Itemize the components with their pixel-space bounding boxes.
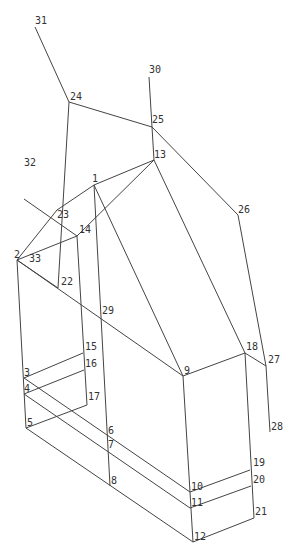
node-label-31: 31: [35, 15, 47, 26]
edge-2-22: [17, 260, 58, 288]
node-label-32: 32: [24, 157, 36, 168]
node-label-30: 30: [149, 64, 161, 75]
edge-24-22: [58, 102, 69, 288]
edge-9-10: [183, 376, 190, 492]
wireframe-diagram: 1234567891011121314151617181920212223242…: [0, 0, 301, 560]
node-label-29: 29: [102, 305, 114, 316]
diagram-edges: [17, 27, 270, 542]
edge-13-18: [154, 160, 245, 353]
edge-23-1: [57, 185, 94, 210]
node-label-1: 1: [92, 173, 98, 184]
node-label-25: 25: [152, 114, 164, 125]
node-label-14: 14: [79, 224, 91, 235]
edge-4-16: [24, 370, 84, 394]
edge-1-9: [94, 185, 183, 376]
edge-25-26: [152, 127, 238, 215]
node-label-23: 23: [57, 209, 69, 220]
node-label-17: 17: [88, 391, 100, 402]
node-label-26: 26: [238, 204, 250, 215]
node-label-18: 18: [246, 341, 258, 352]
node-label-22: 22: [61, 276, 73, 287]
node-label-24: 24: [70, 91, 82, 102]
node-label-21: 21: [255, 506, 267, 517]
edge-18-27: [245, 353, 266, 366]
node-label-27: 27: [268, 354, 280, 365]
node-label-7: 7: [108, 439, 114, 450]
node-label-19: 19: [253, 457, 265, 468]
node-label-2: 2: [14, 249, 20, 260]
edge-3-10: [24, 378, 190, 492]
edge-9-18: [183, 353, 245, 376]
edge-14-17: [77, 236, 87, 405]
node-label-5: 5: [27, 417, 33, 428]
edge-24-25: [69, 102, 152, 127]
node-label-6: 6: [108, 425, 114, 436]
edge-2-5: [17, 260, 26, 428]
node-label-12: 12: [194, 531, 206, 542]
edge-4-11: [24, 394, 190, 508]
node-label-15: 15: [85, 341, 97, 352]
node-label-9: 9: [184, 365, 190, 376]
node-label-33: 33: [29, 253, 41, 264]
node-label-28: 28: [271, 421, 283, 432]
node-label-20: 20: [253, 474, 265, 485]
node-label-13: 13: [154, 149, 166, 160]
edge-27-28: [266, 366, 270, 432]
node-label-4: 4: [24, 383, 30, 394]
node-label-8: 8: [111, 475, 117, 486]
edge-1-13: [94, 160, 154, 185]
node-label-10: 10: [191, 481, 203, 492]
node-label-16: 16: [85, 358, 97, 369]
edge-18-21: [245, 353, 254, 518]
node-label-3: 3: [24, 367, 30, 378]
node-label-11: 11: [191, 497, 203, 508]
edge-31-24: [35, 27, 69, 102]
